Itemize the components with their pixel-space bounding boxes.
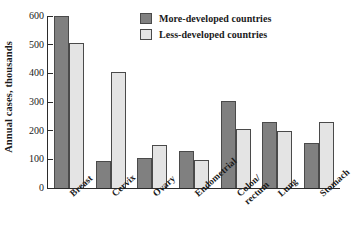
y-tick-label: 400 — [29, 66, 44, 79]
bar-group — [48, 16, 90, 188]
y-tick-label: 200 — [29, 124, 44, 137]
x-label-cell: Breast — [47, 189, 89, 247]
bars-layer — [48, 16, 340, 188]
plot-area: 0100200300400500600 — [47, 16, 340, 189]
bar — [179, 151, 194, 188]
bar-group — [298, 16, 340, 188]
x-label-cell: Endometrial — [172, 189, 214, 247]
x-label-cell: Ovary — [130, 189, 172, 247]
y-axis-title: Annual cases, thousands — [2, 2, 16, 192]
bar — [96, 161, 111, 188]
bar — [69, 43, 84, 188]
bar — [137, 158, 152, 188]
bar — [304, 143, 319, 188]
y-tick-label: 0 — [39, 181, 44, 194]
bar — [54, 16, 69, 188]
y-tick-label: 100 — [29, 152, 44, 165]
x-label-cell: Lung — [256, 189, 298, 247]
y-tick-label: 300 — [29, 95, 44, 108]
y-tick-label: 500 — [29, 38, 44, 51]
x-label-cell: Cervix — [89, 189, 131, 247]
y-tick-label: 600 — [29, 9, 44, 22]
x-label-cell: Colon/rectum — [214, 189, 256, 247]
bar-group — [257, 16, 299, 188]
bar-group — [131, 16, 173, 188]
bar — [111, 72, 126, 188]
x-label-cell: Stomach — [297, 189, 339, 247]
bar-group — [90, 16, 132, 188]
x-axis-labels: BreastCervixOvaryEndometrialColon/rectum… — [47, 189, 339, 247]
bar-group — [173, 16, 215, 188]
